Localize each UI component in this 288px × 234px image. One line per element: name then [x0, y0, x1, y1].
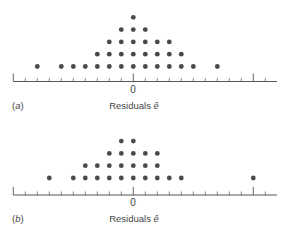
- data-dot: [119, 52, 124, 57]
- data-dot: [107, 64, 112, 69]
- data-dot: [143, 151, 148, 156]
- data-dot: [107, 176, 112, 181]
- data-dot: [71, 64, 76, 69]
- data-dot: [95, 64, 100, 69]
- data-dot: [107, 151, 112, 156]
- data-dot: [119, 176, 124, 181]
- data-dot: [191, 64, 196, 69]
- data-dot: [83, 176, 88, 181]
- data-dot: [59, 64, 64, 69]
- data-dot: [119, 64, 124, 69]
- data-dot: [71, 176, 76, 181]
- data-dot: [107, 40, 112, 45]
- data-dot: [155, 40, 160, 45]
- data-dot: [119, 27, 124, 32]
- data-dot: [155, 52, 160, 57]
- data-dot: [131, 139, 136, 144]
- data-dot: [167, 52, 172, 57]
- data-dot: [95, 163, 100, 168]
- data-dot: [131, 15, 136, 20]
- x-axis-label-a: Residuals ê: [109, 100, 159, 111]
- panel-label-b: (b): [12, 213, 24, 224]
- data-dot: [179, 52, 184, 57]
- data-dot: [35, 64, 40, 69]
- data-dot: [143, 64, 148, 69]
- data-dot: [131, 64, 136, 69]
- data-dot: [143, 163, 148, 168]
- data-dot: [131, 163, 136, 168]
- data-dot: [131, 176, 136, 181]
- data-dot: [131, 40, 136, 45]
- data-dot: [143, 40, 148, 45]
- data-dot: [119, 139, 124, 144]
- data-dot: [107, 52, 112, 57]
- data-dot: [83, 64, 88, 69]
- data-dot: [167, 64, 172, 69]
- zero-tick-label-a: 0: [130, 84, 136, 95]
- data-dot: [131, 151, 136, 156]
- panel-b: 0 (b) Residuals ê: [0, 117, 288, 234]
- data-dot: [83, 163, 88, 168]
- data-dot: [167, 176, 172, 181]
- data-dot: [143, 176, 148, 181]
- data-dot: [95, 176, 100, 181]
- data-dot: [131, 52, 136, 57]
- data-dot: [119, 151, 124, 156]
- data-dot: [143, 52, 148, 57]
- data-dot: [107, 163, 112, 168]
- data-dot: [155, 64, 160, 69]
- panel-label-a: (a): [12, 100, 24, 111]
- data-dot: [215, 64, 220, 69]
- data-dot: [95, 52, 100, 57]
- x-axis-label-b: Residuals ê: [109, 213, 159, 224]
- zero-tick-label-b: 0: [130, 197, 136, 208]
- data-dot: [179, 176, 184, 181]
- data-dot: [155, 163, 160, 168]
- data-dot: [119, 40, 124, 45]
- data-dot: [167, 40, 172, 45]
- data-dot: [251, 176, 256, 181]
- panel-a: 0 (a) Residuals ê: [0, 0, 288, 117]
- data-dot: [155, 151, 160, 156]
- data-dot: [47, 176, 52, 181]
- data-dot: [179, 64, 184, 69]
- data-dot: [119, 163, 124, 168]
- data-dot: [131, 27, 136, 32]
- data-dot: [143, 27, 148, 32]
- data-dot: [155, 176, 160, 181]
